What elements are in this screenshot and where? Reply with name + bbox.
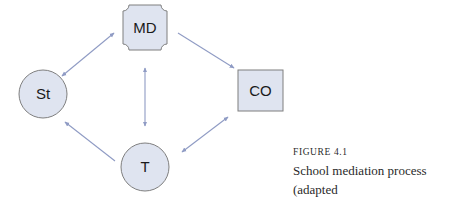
node-co-label: CO [249,82,272,99]
node-t-label: T [140,158,149,175]
figure-label: FIGURE 4.1 [293,147,468,157]
node-md-label: MD [133,19,156,36]
node-co: CO [238,70,283,111]
node-t: T [121,143,169,191]
edge-t-st [65,122,115,161]
figure-caption: FIGURE 4.1 School mediation process (ada… [293,147,468,201]
edge-md-co [178,33,234,68]
edge-st-md [62,33,114,76]
caption-line-2: from Damiano, 2013, p. 76) [293,199,468,201]
node-st: St [19,70,67,118]
node-st-label: St [36,85,51,102]
edge-t-co [182,117,228,152]
caption-line-1: School mediation process (adapted [293,161,468,199]
node-md: MD [123,5,167,50]
